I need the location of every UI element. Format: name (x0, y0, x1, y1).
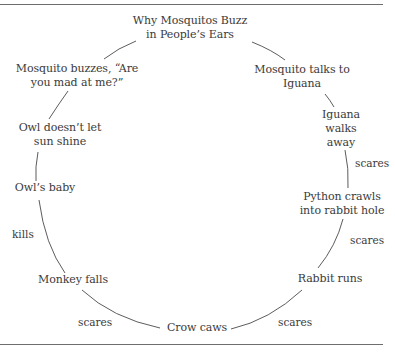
node-owl-sun-line-2: sun shine (19, 135, 102, 149)
edge-label-rabbit-to-crow: scares (278, 316, 312, 328)
node-owls-baby: Owl’s baby (15, 181, 75, 195)
node-owl-sun: Owl doesn’t let sun shine (19, 121, 102, 149)
node-mosquito-buzzes-line-1: Mosquito buzzes, “Are (16, 62, 138, 76)
edge-label-iguana-to-python: scares (355, 157, 389, 169)
node-monkey-falls: Monkey falls (38, 273, 108, 287)
node-mosquito-buzzes-line-2: you mad at me?” (16, 76, 138, 90)
node-mosquito-talks: Mosquito talks to Iguana (254, 63, 349, 91)
arc-mosquito-talks-to-iguana (325, 94, 334, 107)
arc-title-to-mosquito-talks (252, 42, 285, 60)
node-owls-baby-line-1: Owl’s baby (15, 181, 75, 195)
node-crow-caws: Crow caws (167, 321, 227, 335)
node-python-crawls-line-2: into rabbit hole (300, 204, 385, 218)
edge-label-crow-to-monkey: scares (78, 316, 112, 328)
node-crow-caws-line-1: Crow caws (167, 321, 227, 335)
node-title-line-1: Why Mosquitos Buzz (133, 14, 247, 28)
arc-owlsun-to-mosquito-buzzes (49, 91, 68, 119)
node-owl-sun-line-1: Owl doesn’t let (19, 121, 102, 135)
arc-owlbaby-to-owlsun (36, 152, 38, 181)
arc-iguana-to-python (345, 150, 348, 188)
edge-label-monkey-to-owlbaby: kills (12, 228, 34, 240)
arc-mosquito-buzzes-to-title (104, 41, 136, 59)
node-python-crawls-line-1: Python crawls (300, 190, 385, 204)
node-title-line-2: in People’s Ears (133, 28, 247, 42)
node-iguana-walks-line-2: walks (322, 122, 360, 136)
node-rabbit-runs-line-1: Rabbit runs (298, 272, 363, 286)
node-mosquito-buzzes: Mosquito buzzes, “Are you mad at me?” (16, 62, 138, 90)
edge-label-python-to-rabbit: scares (350, 234, 384, 246)
node-iguana-walks-line-3: away (322, 136, 360, 150)
node-rabbit-runs: Rabbit runs (298, 272, 363, 286)
node-iguana-walks-line-1: Iguana (322, 108, 360, 122)
node-mosquito-talks-line-2: Iguana (254, 77, 349, 91)
node-iguana-walks: Iguana walks away (322, 108, 360, 150)
diagram-canvas: Why Mosquitos Buzz in People’s Ears Mosq… (0, 0, 395, 354)
arc-monkey-to-owlbaby (39, 200, 65, 273)
node-python-crawls: Python crawls into rabbit hole (300, 190, 385, 218)
cycle-connectors (0, 0, 395, 354)
node-monkey-falls-line-1: Monkey falls (38, 273, 108, 287)
node-mosquito-talks-line-1: Mosquito talks to (254, 63, 349, 77)
arc-python-to-rabbit (318, 219, 343, 268)
node-title: Why Mosquitos Buzz in People’s Ears (133, 14, 247, 42)
